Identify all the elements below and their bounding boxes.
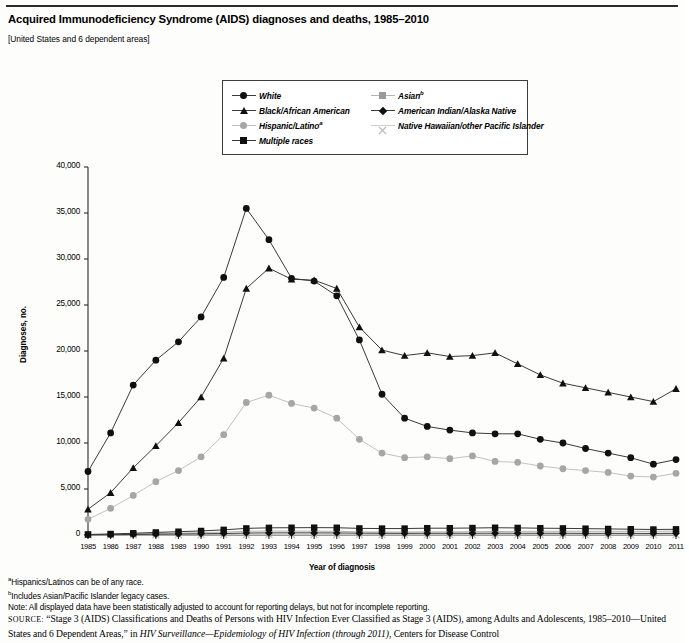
source-line-1: “Stage 3 (AIDS) Classifications and Deat… — [46, 613, 585, 624]
x-axis-title: Year of diagnosis — [0, 563, 684, 572]
y-tick-label: 15,000 — [28, 391, 80, 400]
data-point — [379, 525, 385, 531]
x-tick-label: 2011 — [661, 542, 689, 551]
data-point — [605, 469, 612, 476]
y-tick-label: 40,000 — [28, 161, 80, 170]
data-point — [356, 525, 362, 531]
data-point — [85, 468, 92, 475]
data-point — [605, 450, 612, 457]
source-line-2b: , Centers for Disease Control — [389, 628, 499, 639]
data-point — [673, 526, 679, 532]
data-point — [175, 467, 182, 474]
data-point — [333, 415, 340, 422]
data-point — [379, 391, 386, 398]
data-point — [333, 285, 341, 292]
source-block: SOURCE: “Stage 3 (AIDS) Classifications … — [8, 612, 682, 640]
data-point — [175, 528, 181, 534]
footnote-b: bIncludes Asian/Pacific Islander legacy … — [8, 588, 678, 602]
y-axis-title: Diagnoses, no. — [19, 290, 28, 380]
y-tick-label: 10,000 — [28, 437, 80, 446]
data-point — [288, 525, 294, 531]
data-point — [582, 445, 589, 452]
data-point — [198, 528, 204, 534]
data-point — [266, 236, 273, 243]
data-point — [130, 492, 137, 499]
data-point — [243, 525, 249, 531]
data-point — [446, 455, 453, 462]
data-point — [85, 531, 91, 537]
data-point — [84, 506, 92, 513]
data-point — [673, 456, 680, 463]
data-point — [560, 440, 567, 447]
data-point — [514, 525, 520, 531]
data-point — [627, 454, 634, 461]
data-point — [153, 529, 159, 535]
data-point — [152, 478, 159, 485]
data-point — [628, 526, 634, 532]
data-point — [401, 415, 408, 422]
data-point — [469, 452, 476, 459]
data-point — [220, 355, 228, 362]
data-point — [424, 423, 431, 430]
data-point — [107, 505, 114, 512]
data-point — [401, 525, 407, 531]
y-tick-label: 35,000 — [28, 207, 80, 216]
footnote-a: aHispanics/Latinos can be of any race. — [8, 574, 678, 588]
data-point — [560, 465, 567, 472]
data-point — [650, 461, 657, 468]
source-publication-title: HIV Surveillance—Epidemiology of HIV Inf… — [140, 628, 389, 639]
data-point — [423, 349, 431, 356]
data-point — [582, 525, 588, 531]
data-point — [514, 360, 522, 367]
data-point — [220, 527, 226, 533]
data-point — [266, 525, 272, 531]
footnote-a-text: Hispanics/Latinos can be of any race. — [11, 578, 143, 587]
data-point — [85, 516, 92, 523]
data-point — [243, 205, 250, 212]
data-point — [197, 393, 205, 400]
series-hispanic-latino — [85, 392, 680, 523]
data-point — [605, 526, 611, 532]
data-point — [288, 275, 295, 282]
data-point — [537, 436, 544, 443]
data-point — [175, 338, 182, 345]
data-point — [492, 430, 499, 437]
data-point — [469, 525, 475, 531]
data-point — [265, 265, 273, 272]
data-point — [107, 531, 113, 537]
series-white — [85, 205, 680, 475]
data-point — [537, 525, 543, 531]
series-black-african-american — [84, 265, 680, 513]
series-line — [88, 395, 676, 519]
data-point — [514, 459, 521, 466]
y-tick-label: 30,000 — [28, 253, 80, 262]
data-point — [311, 524, 317, 530]
data-point — [198, 453, 205, 460]
data-point — [627, 473, 634, 480]
data-point — [130, 530, 136, 536]
data-point — [582, 467, 589, 474]
data-point — [537, 463, 544, 470]
y-tick-label: 0 — [28, 529, 80, 538]
data-point — [560, 525, 566, 531]
data-point — [672, 385, 680, 392]
data-point — [650, 474, 657, 481]
data-point — [447, 525, 453, 531]
data-point — [107, 429, 114, 436]
data-point — [220, 431, 227, 438]
data-point — [266, 392, 273, 399]
data-point — [514, 430, 521, 437]
data-point — [492, 458, 499, 465]
y-tick-label: 20,000 — [28, 345, 80, 354]
data-point — [311, 405, 318, 412]
data-point — [198, 314, 205, 321]
data-point — [356, 337, 363, 344]
data-point — [650, 526, 656, 532]
data-point — [356, 436, 363, 443]
data-point — [446, 427, 453, 434]
data-point — [130, 382, 137, 389]
data-point — [492, 525, 498, 531]
footnote-b-text: Includes Asian/Pacific Islander legacy c… — [11, 592, 169, 601]
data-point — [220, 274, 227, 281]
